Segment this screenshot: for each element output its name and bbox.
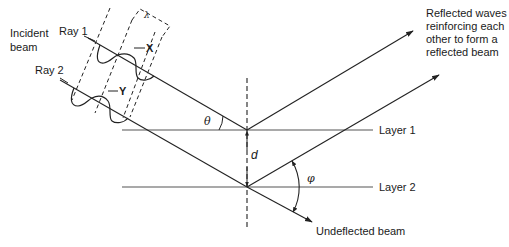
reflected-waves-label: Reflected waves reinforcing each other t… xyxy=(426,7,507,59)
theta-angle-arc xyxy=(219,116,223,130)
x-marker-label: X xyxy=(146,42,153,55)
ray-1-reflected xyxy=(247,31,413,130)
layer-1-label: Layer 1 xyxy=(379,124,416,137)
incident-beam-label: Incident beam xyxy=(10,26,49,54)
y-marker-label: Y xyxy=(119,85,126,98)
ray-2-incident xyxy=(60,80,247,187)
ray-1-label: Ray 1 xyxy=(59,25,88,38)
lambda-label: λ xyxy=(144,9,150,22)
undeflected-beam-label: Undeflected beam xyxy=(316,225,405,238)
d-label: d xyxy=(251,149,258,162)
undeflected-ray xyxy=(247,187,312,222)
layer-2-label: Layer 2 xyxy=(379,181,416,194)
theta-label: θ xyxy=(204,115,211,128)
ray-2-label: Ray 2 xyxy=(35,64,64,77)
phi-label: φ xyxy=(307,172,315,185)
